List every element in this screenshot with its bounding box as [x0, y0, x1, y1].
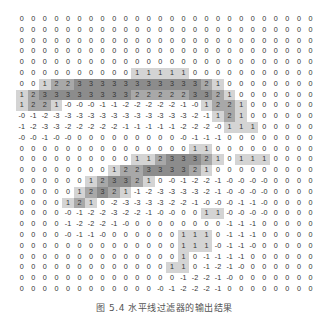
grid-cell: 0	[247, 165, 259, 176]
grid-cell: 0	[270, 100, 282, 111]
grid-cell: 0	[235, 25, 247, 36]
grid-cell: 0	[155, 252, 167, 263]
grid-cell: -0	[247, 176, 259, 187]
grid-cell: 0	[270, 187, 282, 198]
grid-cell: 2	[120, 165, 132, 176]
grid-cell: 0	[155, 262, 167, 273]
grid-cell: -0	[85, 100, 97, 111]
grid-cell: 0	[270, 208, 282, 219]
grid-cell: -3	[51, 122, 63, 133]
grid-cell: 0	[305, 241, 317, 252]
grid-cell: -1	[28, 111, 40, 122]
grid-cell: 0	[62, 14, 74, 25]
grid-cell: 0	[178, 46, 190, 57]
grid-cell: -3	[97, 111, 109, 122]
grid-cell: -1	[235, 219, 247, 230]
grid-cell: 0	[120, 273, 132, 284]
grid-cell: 3	[189, 79, 201, 90]
grid-cell: 0	[131, 262, 143, 273]
grid-cell: -2	[201, 284, 213, 295]
grid-cell: 0	[74, 284, 86, 295]
grid-cell: 1	[235, 111, 247, 122]
grid-cell: 0	[305, 165, 317, 176]
grid-cell: 0	[108, 230, 120, 241]
grid-cell: 0	[178, 57, 190, 68]
grid-cell: 0	[120, 144, 132, 155]
grid-cell: 2	[201, 79, 213, 90]
grid-cell: -1	[212, 273, 224, 284]
grid-cell: 0	[62, 176, 74, 187]
grid-cell: 0	[143, 230, 155, 241]
grid-cell: 0	[247, 57, 259, 68]
grid-cell: 0	[108, 68, 120, 79]
grid-cell: 1	[201, 241, 213, 252]
grid-cell: -2	[201, 122, 213, 133]
grid-cell: 0	[62, 187, 74, 198]
grid-cell: 3	[178, 79, 190, 90]
grid-cell: -0	[166, 176, 178, 187]
grid-cell: 3	[120, 90, 132, 101]
grid-cell: 3	[97, 79, 109, 90]
grid-cell: 0	[85, 241, 97, 252]
grid-cell: 3	[143, 79, 155, 90]
grid-cell: 0	[62, 241, 74, 252]
grid-cell: -1	[201, 262, 213, 273]
grid-cell: 0	[51, 284, 63, 295]
grid-cell: 0	[51, 273, 63, 284]
grid-cell: 0	[155, 219, 167, 230]
grid-cell: 0	[282, 46, 294, 57]
grid-cell: -1	[247, 219, 259, 230]
grid-cell: 0	[74, 144, 86, 155]
grid-cell: -2	[74, 219, 86, 230]
grid-cell: -3	[143, 111, 155, 122]
grid-cell: 2	[212, 90, 224, 101]
grid-cell: 0	[97, 36, 109, 47]
grid-cell: -2	[97, 208, 109, 219]
grid-cell: 0	[51, 14, 63, 25]
grid-cell: 0	[270, 68, 282, 79]
grid-cell: -3	[120, 198, 132, 209]
grid-cell: -3	[155, 111, 167, 122]
grid-cell: 0	[270, 252, 282, 263]
grid-cell: -1	[62, 219, 74, 230]
grid-cell: 1	[201, 208, 213, 219]
grid-cell: -3	[131, 198, 143, 209]
grid-cell: 0	[258, 122, 270, 133]
grid-cell: 0	[305, 252, 317, 263]
grid-cell: 0	[51, 198, 63, 209]
grid-cell: 0	[201, 46, 213, 57]
grid-cell: 0	[270, 79, 282, 90]
grid-cell: 0	[305, 284, 317, 295]
grid-cell: 0	[282, 90, 294, 101]
grid-cell: 0	[258, 144, 270, 155]
grid-cell: -0	[16, 133, 28, 144]
grid-cell: 0	[224, 68, 236, 79]
grid-cell: 0	[85, 273, 97, 284]
grid-cell: 0	[74, 36, 86, 47]
grid-cell: 0	[293, 230, 305, 241]
grid-cell: 0	[108, 133, 120, 144]
grid-cell: 2	[39, 100, 51, 111]
grid-cell: -0	[258, 187, 270, 198]
grid-cell: 2	[131, 165, 143, 176]
grid-cell: 0	[282, 100, 294, 111]
grid-cell: 0	[16, 208, 28, 219]
grid-cell: 0	[155, 25, 167, 36]
grid-cell: 0	[39, 144, 51, 155]
grid-cell: 0	[270, 57, 282, 68]
grid-cell: 0	[293, 111, 305, 122]
grid-cell: 0	[247, 252, 259, 263]
grid-cell: 0	[39, 14, 51, 25]
grid-cell: 0	[270, 36, 282, 47]
grid-cell: 1	[212, 111, 224, 122]
grid-cell: 0	[293, 262, 305, 273]
grid-cell: 0	[282, 262, 294, 273]
grid-cell: -2	[143, 100, 155, 111]
grid-cell: 0	[62, 36, 74, 47]
grid-cell: -2	[201, 187, 213, 198]
grid-cell: 0	[235, 36, 247, 47]
grid-cell: 1	[212, 154, 224, 165]
grid-cell: 0	[28, 57, 40, 68]
grid-cell: 0	[120, 230, 132, 241]
grid-cell: -3	[166, 111, 178, 122]
